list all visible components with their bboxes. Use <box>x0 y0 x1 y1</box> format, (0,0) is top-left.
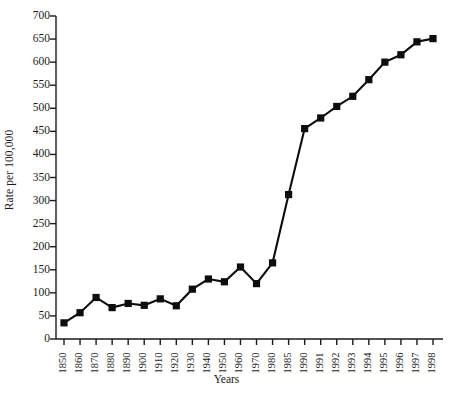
x-tick-label: 1940 <box>202 352 213 373</box>
plot-area <box>0 0 453 395</box>
x-tick-label: 1960 <box>234 352 245 373</box>
data-point-marker <box>381 59 388 66</box>
data-point-marker <box>221 278 228 285</box>
x-tick-label: 1880 <box>106 352 117 373</box>
x-tick-label: 1900 <box>138 352 149 373</box>
data-point-marker <box>237 263 244 270</box>
data-point-marker <box>109 304 116 311</box>
data-point-marker <box>205 275 212 282</box>
data-point-marker <box>365 76 372 83</box>
data-point-marker <box>125 300 132 307</box>
data-point-marker <box>157 295 164 302</box>
x-tick-label: 1860 <box>74 352 85 373</box>
data-point-marker <box>333 103 340 110</box>
x-tick-label: 1997 <box>410 352 421 373</box>
x-tick-label: 1920 <box>170 352 181 373</box>
data-point-marker <box>173 302 180 309</box>
data-series-line <box>64 39 433 323</box>
data-point-marker <box>141 302 148 309</box>
x-tick-label: 1910 <box>154 352 165 373</box>
data-point-marker <box>301 125 308 132</box>
x-tick-label: 1890 <box>122 352 133 373</box>
x-tick-label: 1998 <box>427 352 438 373</box>
data-point-marker <box>92 294 99 301</box>
data-point-marker <box>76 309 83 316</box>
data-series-markers <box>60 35 436 326</box>
data-point-marker <box>285 191 292 198</box>
x-tick-label: 1996 <box>394 352 405 373</box>
y-axis-ticks <box>50 16 56 339</box>
data-point-marker <box>269 259 276 266</box>
data-point-marker <box>429 35 436 42</box>
data-point-marker <box>413 38 420 45</box>
x-tick-label: 1992 <box>330 352 341 373</box>
x-tick-label: 1980 <box>266 352 277 373</box>
x-tick-label: 1993 <box>346 352 357 373</box>
x-tick-label: 1990 <box>298 352 309 373</box>
x-axis-title: Years <box>0 373 453 385</box>
x-tick-label: 1995 <box>378 352 389 373</box>
x-tick-label: 1985 <box>282 352 293 373</box>
data-point-marker <box>397 51 404 58</box>
chart-figure: Rate per 100,000 05010015020025030035040… <box>0 0 453 395</box>
x-tick-label: 1950 <box>218 352 229 373</box>
x-tick-label: 1970 <box>250 352 261 373</box>
data-point-marker <box>60 319 67 326</box>
x-tick-label: 1850 <box>58 352 69 373</box>
x-tick-label: 1994 <box>362 352 373 373</box>
x-axis-tick-labels: 1850186018701880189019001910192019301940… <box>0 345 453 373</box>
x-tick-label: 1930 <box>186 352 197 373</box>
data-point-marker <box>349 93 356 100</box>
data-point-marker <box>253 280 260 287</box>
data-point-marker <box>317 114 324 121</box>
x-tick-label: 1870 <box>90 352 101 373</box>
x-tick-label: 1991 <box>314 352 325 373</box>
data-point-marker <box>189 286 196 293</box>
